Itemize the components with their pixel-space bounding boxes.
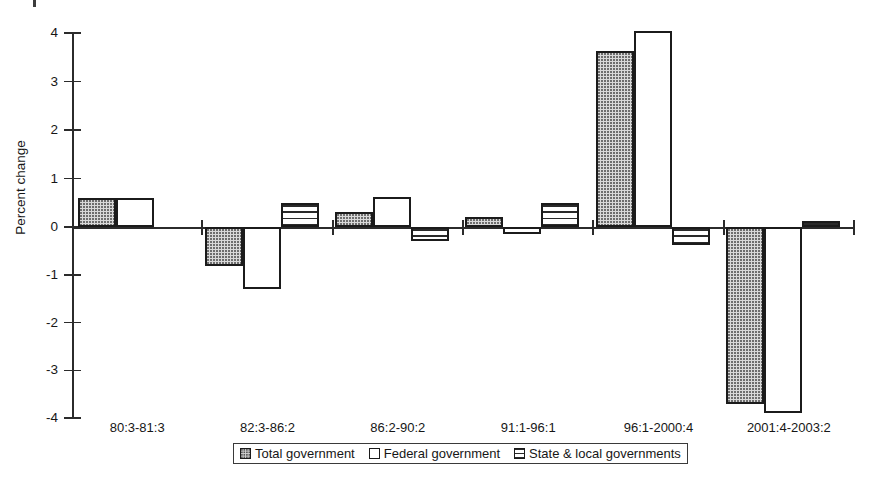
bar — [243, 227, 281, 289]
y-axis-tick — [64, 129, 81, 131]
bar — [411, 227, 449, 241]
bar — [78, 198, 116, 227]
bar — [373, 197, 411, 227]
x-axis-group-tick — [592, 220, 594, 235]
x-axis-label: 96:1-2000:4 — [593, 421, 723, 435]
legend-item[interactable]: State & local governments — [514, 447, 681, 460]
bar — [116, 198, 154, 227]
scan-artifact — [33, 0, 36, 7]
y-axis-tick — [64, 178, 81, 180]
bar — [503, 227, 541, 234]
x-axis-group-tick — [332, 220, 334, 235]
y-axis-tick-label: -4 — [28, 411, 58, 425]
bar — [205, 227, 243, 266]
bar — [764, 227, 802, 413]
y-axis-tick — [64, 370, 81, 372]
y-axis-tick — [64, 81, 81, 83]
y-axis-tick-label: -2 — [28, 316, 58, 330]
legend-item[interactable]: Total government — [240, 447, 355, 460]
legend-item[interactable]: Federal government — [369, 447, 500, 460]
y-axis-tick — [64, 322, 81, 324]
bar — [465, 217, 503, 227]
y-axis-tick — [64, 417, 81, 419]
legend-label: State & local governments — [529, 447, 681, 460]
bar — [634, 31, 672, 227]
y-axis-tick-label: 3 — [28, 75, 58, 89]
legend-swatch-icon — [369, 448, 380, 459]
x-axis-label: 86:2-90:2 — [333, 421, 463, 435]
legend-label: Federal government — [384, 447, 500, 460]
x-axis-label: 91:1-96:1 — [463, 421, 593, 435]
x-axis-label: 2001:4-2003:2 — [724, 421, 854, 435]
y-axis-tick-label: 1 — [28, 172, 58, 186]
chart-legend: Total governmentFederal governmentState … — [233, 443, 688, 464]
y-axis-title: Percent change — [13, 88, 28, 288]
bar — [802, 221, 840, 227]
bar — [281, 203, 319, 227]
y-axis-tick — [64, 274, 81, 276]
bar — [726, 227, 764, 404]
x-axis-label: 82:3-86:2 — [202, 421, 332, 435]
y-axis-tick-label: 0 — [28, 220, 58, 234]
bar-chart: Percent change 43210-1-2-3-4 80:3-81:382… — [0, 0, 876, 489]
legend-swatch-icon — [514, 448, 525, 459]
x-axis-group-tick — [201, 220, 203, 235]
bar — [596, 51, 634, 227]
x-axis-label: 80:3-81:3 — [72, 421, 202, 435]
y-axis-tick-label: -3 — [28, 363, 58, 377]
legend-swatch-icon — [240, 448, 251, 459]
legend-label: Total government — [255, 447, 355, 460]
x-axis-group-tick — [723, 220, 725, 235]
y-axis-tick-label: -1 — [28, 268, 58, 282]
bar — [335, 212, 373, 227]
x-axis-end-tick — [853, 220, 855, 235]
y-axis-tick-label: 4 — [28, 26, 58, 40]
x-axis-group-tick — [462, 220, 464, 235]
y-axis-tick — [64, 32, 81, 34]
bar — [672, 227, 710, 245]
bar — [541, 203, 579, 227]
y-axis-tick-label: 2 — [28, 123, 58, 137]
